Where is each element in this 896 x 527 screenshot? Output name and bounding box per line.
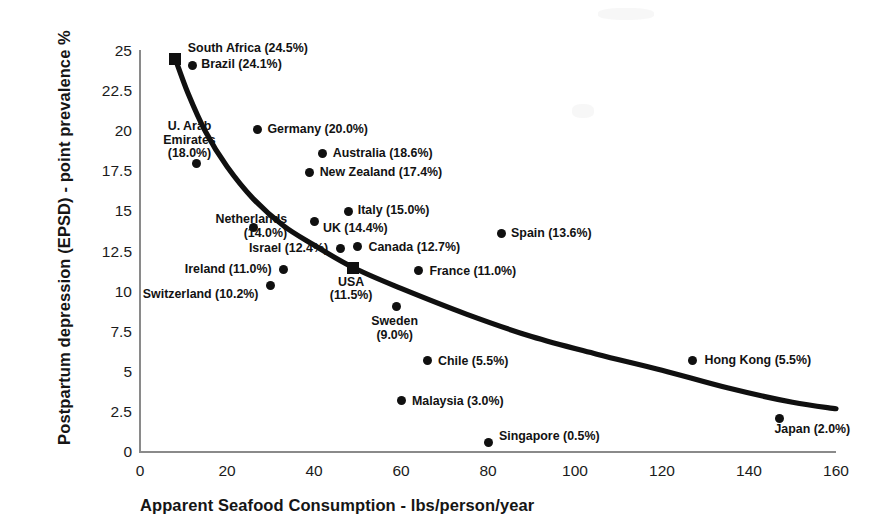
data-point-ireland: [279, 265, 288, 274]
data-point-uk: [310, 217, 319, 226]
x-tick-label: 40: [284, 462, 344, 480]
y-tick-label: 10: [0, 283, 132, 301]
x-tick-label: 100: [545, 462, 605, 480]
x-tick-label: 0: [110, 462, 170, 480]
point-label-canada: Canada (12.7%): [369, 241, 461, 255]
point-label-new-zealand: New Zealand (17.4%): [320, 166, 443, 180]
point-label-sweden: Sweden(9.0%): [360, 315, 430, 342]
y-tick-label: 0: [0, 443, 132, 461]
point-label-italy: Italy (15.0%): [358, 204, 430, 218]
data-point-canada: [353, 242, 362, 251]
point-label-singapore: Singapore (0.5%): [499, 430, 600, 444]
point-label-france: France (11.0%): [429, 265, 516, 279]
point-label-u-arab-emirates: U. ArabEmirates(18.0%): [154, 120, 226, 161]
data-point-hong-kong: [688, 356, 697, 365]
x-tick-label: 120: [632, 462, 692, 480]
data-point-sweden: [392, 302, 401, 311]
x-tick-label: 80: [458, 462, 518, 480]
y-tick-label: 12.5: [0, 243, 132, 261]
y-tick-label: 20: [0, 122, 132, 140]
point-label-israel: Israel (12.4%): [249, 242, 328, 256]
point-label-switzerland: Switzerland (10.2%): [143, 288, 259, 302]
y-tick-label: 7.5: [0, 323, 132, 341]
data-point-australia: [318, 149, 327, 158]
y-tick-label: 5: [0, 363, 132, 381]
point-label-brazil: Brazil (24.1%): [201, 58, 282, 72]
data-point-chile: [423, 356, 432, 365]
x-axis-title: Apparent Seafood Consumption - lbs/perso…: [140, 496, 840, 515]
y-axis-line: [139, 50, 141, 453]
y-tick-label: 15: [0, 202, 132, 220]
point-label-hong-kong: Hong Kong (5.5%): [704, 354, 811, 368]
x-tick-label: 160: [806, 462, 866, 480]
point-label-south-africa: South Africa (24.5%): [188, 42, 308, 56]
point-label-usa: USA(11.5%): [320, 276, 382, 303]
point-label-germany: Germany (20.0%): [267, 123, 368, 137]
scan-artifact: [598, 8, 654, 20]
data-point-brazil: [188, 61, 197, 70]
data-point-singapore: [484, 438, 493, 447]
point-label-ireland: Ireland (11.0%): [185, 263, 272, 277]
y-axis-title: Postpartum depression (EPSD) - point pre…: [55, 8, 74, 468]
point-label-spain: Spain (13.6%): [511, 227, 592, 241]
point-label-australia: Australia (18.6%): [333, 147, 433, 161]
data-point-spain: [497, 229, 506, 238]
y-tick-label: 22.5: [0, 82, 132, 100]
x-tick-label: 20: [197, 462, 257, 480]
point-label-netherlands: Netherlands(14.0%): [191, 213, 287, 240]
y-tick-label: 25: [0, 42, 132, 60]
data-point-usa: [347, 262, 359, 274]
y-tick-label: 2.5: [0, 403, 132, 421]
point-label-japan: Japan (2.0%): [774, 423, 850, 437]
data-point-israel: [336, 244, 345, 253]
point-label-malaysia: Malaysia (3.0%): [412, 395, 504, 409]
scan-artifact: [572, 104, 594, 118]
data-point-malaysia: [397, 396, 406, 405]
x-tick-label: 60: [371, 462, 431, 480]
data-point-germany: [253, 125, 262, 134]
point-label-uk: UK (14.4%): [323, 222, 388, 236]
y-tick-label: 17.5: [0, 162, 132, 180]
point-label-chile: Chile (5.5%): [438, 355, 508, 369]
data-point-france: [414, 266, 423, 275]
data-point-italy: [344, 207, 353, 216]
x-axis-line: [139, 451, 836, 453]
data-point-south-africa: [169, 53, 181, 65]
x-tick-label: 140: [719, 462, 779, 480]
data-point-new-zealand: [305, 168, 314, 177]
scatter-chart: Postpartum depression (EPSD) - point pre…: [0, 0, 896, 527]
data-point-switzerland: [266, 281, 275, 290]
